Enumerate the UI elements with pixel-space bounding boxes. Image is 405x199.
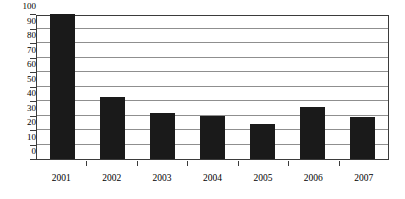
x-axis-tick-label: 2004 (187, 161, 237, 191)
y-axis-tick-label: 100 (2, 2, 36, 11)
bar (350, 117, 375, 159)
bar-chart: 1009080706050403020100 20012002200320042… (0, 0, 405, 199)
bar (300, 107, 325, 159)
x-axis: 2001200220032004200520062007 (36, 161, 389, 191)
bar (100, 97, 125, 159)
x-axis-tick-mark (238, 161, 239, 166)
x-axis-tick-label: 2007 (339, 161, 389, 191)
y-axis-tick-label: 20 (2, 118, 36, 127)
x-axis-tick-mark (339, 161, 340, 166)
bar (200, 116, 225, 160)
bar-slot (37, 16, 87, 159)
y-axis-tick-label: 40 (2, 89, 36, 98)
plot-area (36, 15, 389, 160)
x-axis-tick-label: 2003 (137, 161, 187, 191)
bar-slot (238, 16, 288, 159)
bar (250, 124, 275, 159)
x-axis-tick-label: 2005 (238, 161, 288, 191)
bar-slot (338, 16, 388, 159)
y-axis-tick-label: 70 (2, 45, 36, 54)
x-axis-tick-mark (86, 161, 87, 166)
y-axis-tick-label: 50 (2, 74, 36, 83)
x-axis-tick-mark (288, 161, 289, 166)
bar-slot (187, 16, 237, 159)
y-axis-tick-label: 10 (2, 132, 36, 141)
y-axis-tick-label: 90 (2, 16, 36, 25)
y-axis-tick-label: 60 (2, 60, 36, 69)
bar-slot (87, 16, 137, 159)
bar (50, 14, 75, 159)
bar-slot (137, 16, 187, 159)
y-axis-tick-label: 80 (2, 31, 36, 40)
bars-layer (37, 16, 388, 159)
x-axis-tick-mark (187, 161, 188, 166)
bar-slot (288, 16, 338, 159)
x-axis-tick-mark (137, 161, 138, 166)
y-axis-tick-label: 30 (2, 103, 36, 112)
x-axis-tick-label: 2006 (288, 161, 338, 191)
x-axis-tick-label: 2001 (36, 161, 86, 191)
y-axis: 1009080706050403020100 (0, 15, 36, 160)
y-axis-tick-label: 0 (2, 147, 36, 156)
x-axis-tick-label: 2002 (86, 161, 136, 191)
bar (150, 113, 175, 159)
